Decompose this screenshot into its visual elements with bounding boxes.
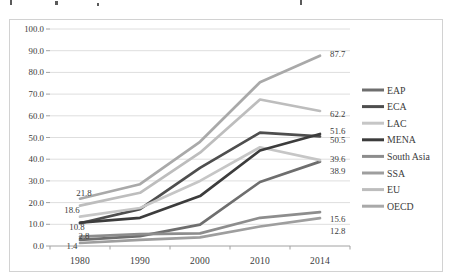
y-tick-label: 100.0: [24, 24, 44, 34]
cropped-text-fragment: [55, 1, 58, 5]
cropped-text-fragment: [97, 3, 99, 6]
legend-label-eu: EU: [387, 184, 400, 195]
y-tick-label: 70.0: [29, 89, 45, 99]
y-tick-label: 40.0: [29, 154, 45, 164]
legend-label-oecd: OECD: [387, 201, 414, 212]
value-label-right: 38.9: [330, 166, 346, 176]
value-label-right: 39.6: [330, 154, 346, 164]
y-tick-label: 60.0: [29, 111, 45, 121]
legend-label-ssa: SSA: [387, 168, 405, 179]
value-label-right: 50.5: [330, 135, 346, 145]
cropped-text-fragment: [300, 0, 302, 5]
legend-label-eca: ECA: [387, 101, 407, 112]
y-tick-label: 90.0: [29, 46, 45, 56]
value-label-right: 12.8: [330, 226, 346, 236]
value-label-right: 15.6: [330, 214, 346, 224]
legend-label-eap: EAP: [387, 85, 406, 96]
value-label-left: 2.8: [79, 231, 91, 241]
x-tick-label: 1990: [130, 256, 150, 266]
legend-label-lac: LAC: [387, 118, 407, 129]
legend-label-mena: MENA: [387, 134, 416, 145]
x-tick-label: 2000: [190, 256, 210, 266]
y-tick-label: 20.0: [29, 198, 45, 208]
x-tick-label: 2010: [250, 256, 270, 266]
x-tick-label: 1980: [70, 256, 90, 266]
line-chart: 100.090.080.070.060.050.040.030.020.010.…: [0, 0, 450, 273]
y-tick-label: 10.0: [29, 219, 45, 229]
y-tick-label: 50.0: [29, 133, 45, 143]
value-label-right: 62.2: [330, 109, 345, 119]
value-label-left: 18.6: [64, 205, 80, 215]
cropped-text-fragment: [10, 0, 12, 5]
y-tick-label: 80.0: [29, 67, 45, 77]
chart-page: 100.090.080.070.060.050.040.030.020.010.…: [0, 0, 450, 273]
value-label-left: 21.8: [76, 188, 92, 198]
legend-label-south-asia: South Asia: [387, 151, 430, 162]
value-label-left: 1.4: [67, 241, 79, 251]
y-tick-label: 0.0: [33, 241, 45, 251]
y-tick-label: 30.0: [29, 176, 45, 186]
value-label-right: 87.7: [330, 49, 346, 59]
x-tick-label: 2014: [310, 256, 330, 266]
